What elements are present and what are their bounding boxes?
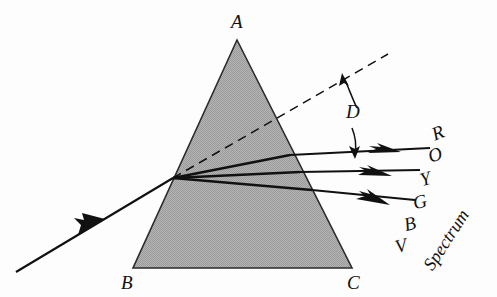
prism-vertex-label-a: A	[231, 12, 243, 31]
incident-ray-arrowhead	[74, 213, 105, 235]
emergent-ray-yellow	[300, 170, 420, 172]
prism-dispersion-figure: A B C D R O Y G B V Spectrum	[0, 0, 497, 297]
deviation-upper-arrowhead	[339, 73, 349, 86]
emergent-ray-red	[290, 148, 430, 155]
deviation-angle-label: D	[346, 102, 360, 121]
emergent-ray-red-arrowhead	[368, 143, 401, 153]
prism-vertex-label-b: B	[121, 273, 133, 292]
prism-vertex-label-c: C	[347, 273, 360, 292]
diagram-canvas	[0, 0, 497, 297]
